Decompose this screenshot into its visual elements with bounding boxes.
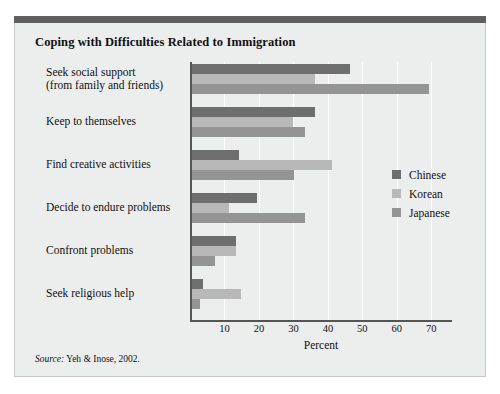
category-axis-labels: Seek social support(from family and frie… [46,62,214,320]
x-axis-title: Percent [190,339,452,351]
bar [191,236,236,246]
y-axis-line [190,62,192,320]
gridline [259,62,260,320]
category-label-line: Confront problems [46,244,214,258]
bar [191,299,200,309]
bar [191,246,236,256]
bar [191,160,332,170]
category-label-line: Seek religious help [46,287,214,301]
chart-title: Coping with Difficulties Related to Immi… [35,35,296,50]
legend-item: Korean [392,184,482,203]
bar [191,117,293,127]
legend-swatch-icon [392,189,401,198]
bar [191,64,350,74]
chart-legend: ChineseKoreanJapanese [392,165,482,222]
x-tick-label: 60 [392,323,403,334]
gridline [362,62,363,320]
x-tick-label: 20 [254,323,265,334]
category-label: Confront problems [46,244,214,258]
x-axis-tick-labels: 10203040506070 [190,323,452,339]
source-label: Source: [35,354,64,364]
gridline [293,62,294,320]
bar [191,289,241,299]
x-tick-label: 70 [426,323,437,334]
gridline [328,62,329,320]
chart-figure: Coping with Difficulties Related to Immi… [14,16,486,378]
legend-item: Chinese [392,165,482,184]
category-label: Seek social support(from family and frie… [46,66,214,93]
legend-swatch-icon [392,170,401,179]
gridline [224,62,225,320]
bar [191,193,257,203]
x-tick-label: 40 [323,323,334,334]
category-label-line: Find creative activities [46,158,214,172]
category-label-line: Seek social support [46,66,214,80]
legend-label: Chinese [409,169,446,181]
source-text: Yeh & Inose, 2002. [64,354,140,364]
chart-panel: Coping with Difficulties Related to Immi… [14,23,486,377]
bar [191,203,229,213]
category-label: Keep to themselves [46,115,214,129]
bar [191,107,315,117]
legend-label: Korean [409,188,443,200]
source-note: Source: Yeh & Inose, 2002. [35,354,140,364]
bar [191,150,239,160]
x-tick-label: 50 [357,323,368,334]
bar [191,74,315,84]
bar [191,256,215,266]
category-label-line: (from family and friends) [46,79,214,93]
category-label-line: Decide to endure problems [46,201,214,215]
category-label: Find creative activities [46,158,214,172]
legend-item: Japanese [392,203,482,222]
legend-label: Japanese [409,207,450,219]
bar [191,127,305,137]
bar [191,170,294,180]
x-tick-label: 30 [288,323,299,334]
bar [191,84,429,94]
category-label: Decide to endure problems [46,201,214,215]
title-accent-bar [14,16,486,23]
category-label: Seek religious help [46,287,214,301]
category-label-line: Keep to themselves [46,115,214,129]
x-axis-line [190,320,452,322]
bar [191,279,203,289]
x-tick-label: 10 [219,323,230,334]
bar [191,213,305,223]
legend-swatch-icon [392,208,401,217]
